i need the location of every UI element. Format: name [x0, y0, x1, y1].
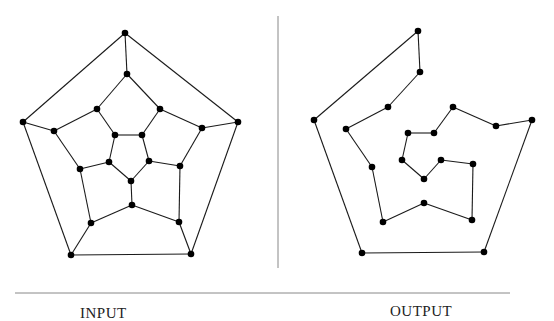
input-edge — [80, 169, 91, 223]
output-node — [450, 104, 457, 111]
output-node — [438, 157, 445, 164]
input-node — [177, 163, 184, 170]
input-edge — [142, 109, 160, 135]
output-node — [421, 200, 428, 207]
output-edge — [346, 129, 372, 167]
input-node — [112, 132, 119, 139]
input-edge — [179, 222, 191, 254]
output-edge — [484, 120, 532, 252]
graph-figure — [0, 0, 554, 321]
output-node — [369, 164, 376, 171]
output-edge — [453, 107, 496, 126]
input-edge — [180, 128, 202, 166]
input-node — [88, 220, 95, 227]
output-edge — [434, 107, 453, 133]
input-node — [139, 132, 146, 139]
output-node — [481, 249, 488, 256]
input-edge — [71, 223, 91, 255]
output-edge — [314, 120, 362, 253]
output-node — [405, 130, 412, 137]
input-edge — [23, 122, 54, 131]
output-node — [431, 130, 438, 137]
output-edge — [418, 31, 420, 72]
input-edge — [109, 162, 131, 181]
input-edge — [142, 135, 149, 161]
output-node — [359, 250, 366, 257]
input-edge — [54, 109, 97, 131]
output-node — [493, 123, 500, 130]
input-node — [129, 202, 136, 209]
input-edge — [54, 131, 80, 169]
output-edge — [496, 120, 532, 126]
input-node — [128, 178, 135, 185]
output-graph — [311, 28, 536, 257]
input-edge — [127, 74, 160, 109]
output-edge — [362, 252, 484, 253]
input-edge — [80, 162, 109, 169]
input-node — [235, 119, 242, 126]
output-edge — [441, 160, 473, 164]
output-node — [311, 117, 318, 124]
input-edge — [191, 122, 238, 254]
output-node — [470, 161, 477, 168]
input-node — [199, 125, 206, 132]
input-node — [157, 106, 164, 113]
input-edge — [97, 74, 127, 109]
output-label: OUTPUT — [390, 303, 452, 320]
input-edge — [97, 109, 115, 135]
input-edge — [23, 33, 125, 122]
output-edge — [402, 133, 408, 160]
output-node — [380, 219, 387, 226]
output-edge — [424, 160, 441, 179]
input-node — [176, 219, 183, 226]
output-node — [529, 117, 536, 124]
input-edge — [160, 109, 202, 128]
input-node — [51, 128, 58, 135]
input-edge — [131, 161, 149, 181]
input-edge — [23, 122, 71, 255]
output-edge — [388, 72, 420, 107]
output-node — [469, 217, 476, 224]
input-node — [146, 158, 153, 165]
input-label: INPUT — [80, 305, 127, 321]
input-edge — [125, 33, 127, 74]
input-graph — [20, 30, 242, 259]
input-node — [188, 251, 195, 258]
output-node — [415, 28, 422, 35]
input-edge — [109, 135, 115, 162]
input-node — [106, 159, 113, 166]
input-node — [124, 71, 131, 78]
input-edge — [91, 205, 132, 223]
output-edge — [372, 167, 383, 222]
input-edge — [125, 33, 238, 122]
output-edge — [424, 203, 472, 220]
output-node — [385, 104, 392, 111]
input-edge — [179, 166, 180, 222]
input-edge — [149, 161, 180, 166]
input-node — [77, 166, 84, 173]
input-edge — [202, 122, 238, 128]
output-node — [417, 69, 424, 76]
output-edge — [383, 203, 424, 222]
output-edge — [314, 31, 418, 120]
input-edge — [131, 181, 132, 205]
input-node — [68, 252, 75, 259]
output-node — [421, 176, 428, 183]
output-node — [399, 157, 406, 164]
input-edge — [132, 205, 179, 222]
input-node — [20, 119, 27, 126]
output-edge — [346, 107, 388, 129]
input-node — [94, 106, 101, 113]
input-node — [122, 30, 129, 37]
output-edge — [402, 160, 424, 179]
output-node — [343, 126, 350, 133]
output-edge — [472, 164, 473, 220]
input-edge — [71, 254, 191, 255]
